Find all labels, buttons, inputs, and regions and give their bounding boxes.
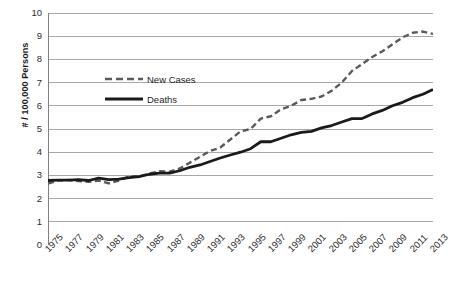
y-tick-label: 3 — [22, 170, 42, 180]
x-axis-tick-labels: 1975197719791981198319851987198919911993… — [48, 247, 433, 287]
y-tick-label: 4 — [22, 147, 42, 157]
chart-legend: New Cases Deaths — [105, 72, 220, 112]
y-tick-label: 6 — [22, 101, 42, 111]
y-tick-label: 0 — [22, 240, 42, 250]
y-tick-label: 7 — [22, 78, 42, 88]
plot-area — [48, 13, 433, 245]
y-tick-label: 9 — [22, 31, 42, 41]
y-tick-label: 2 — [22, 194, 42, 204]
y-tick-label: 5 — [22, 124, 42, 134]
y-tick-label: 8 — [22, 54, 42, 64]
y-tick-label: 10 — [22, 8, 42, 18]
y-tick-label: 1 — [22, 217, 42, 227]
y-axis-tick-labels: 012345678910 — [20, 13, 42, 245]
legend-item-new-cases: New Cases — [105, 72, 220, 86]
plot-canvas — [48, 13, 433, 245]
legend-swatch-dashed-icon — [105, 74, 143, 84]
legend-swatch-solid-icon — [105, 94, 143, 104]
legend-label-new-cases: New Cases — [147, 74, 196, 85]
legend-item-deaths: Deaths — [105, 92, 220, 106]
legend-label-deaths: Deaths — [147, 94, 177, 105]
